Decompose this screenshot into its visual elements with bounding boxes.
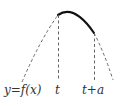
parabola-diagram: y=f(x) t t+a (0, 0, 125, 106)
curve-solid-segment (58, 12, 94, 33)
curve-dashed-right (94, 33, 113, 80)
curve-dashed-left (22, 15, 58, 82)
curve-label: y=f(x) (3, 83, 42, 97)
tick-label-t: t (55, 83, 60, 97)
tick-label-t-plus-a: t+a (82, 83, 104, 97)
